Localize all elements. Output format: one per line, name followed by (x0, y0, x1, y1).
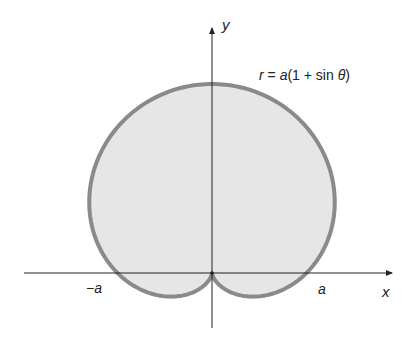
equation-label: r = a(1 + sin θ) (259, 67, 350, 83)
y-axis-label: y (222, 16, 230, 33)
eq-rest: (1 + sin (287, 67, 337, 83)
cardioid-diagram (0, 0, 407, 339)
eq-equals: = (264, 67, 280, 83)
pos-a-label: a (318, 281, 326, 297)
origin-point (210, 271, 214, 275)
eq-close: ) (345, 67, 350, 83)
neg-a-label: −a (86, 280, 102, 296)
x-axis-label: x (382, 283, 390, 300)
